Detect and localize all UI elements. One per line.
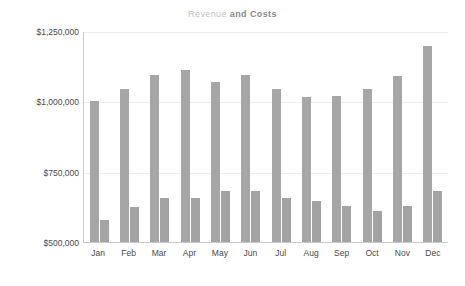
bar-group	[90, 32, 109, 242]
bar-costs-sep[interactable]	[342, 206, 351, 242]
bar-revenue-jul[interactable]	[272, 89, 281, 242]
bar-group	[393, 32, 412, 242]
bar-costs-jul[interactable]	[282, 198, 291, 242]
x-tick-label: Jul	[266, 248, 296, 259]
bar-group	[150, 32, 169, 242]
bar-revenue-sep[interactable]	[332, 96, 341, 242]
x-tick-label: Aug	[296, 248, 326, 259]
bar-revenue-feb[interactable]	[120, 89, 129, 242]
bar-revenue-mar[interactable]	[150, 75, 159, 242]
y-tick-label: $500,000	[1, 238, 79, 248]
x-tick-label: Dec	[418, 248, 448, 259]
bar-group	[423, 32, 442, 242]
bar-revenue-may[interactable]	[211, 82, 220, 242]
chart-title-part-light: Revenue	[188, 9, 227, 19]
x-tick-label: Sep	[326, 248, 356, 259]
bar-costs-apr[interactable]	[191, 198, 200, 242]
y-tick-label: $750,000	[1, 168, 79, 178]
chart-title-part-strong: and Costs	[227, 9, 277, 19]
bar-revenue-aug[interactable]	[302, 97, 311, 242]
bar-revenue-nov[interactable]	[393, 76, 402, 242]
x-tick-label: Nov	[387, 248, 417, 259]
bar-group	[181, 32, 200, 242]
bar-revenue-jan[interactable]	[90, 101, 99, 242]
bar-group	[272, 32, 291, 242]
bar-costs-jan[interactable]	[100, 220, 109, 243]
x-tick-label: Jan	[83, 248, 113, 259]
x-tick-label: Mar	[144, 248, 174, 259]
x-tick-label: Oct	[357, 248, 387, 259]
plot-area	[83, 32, 448, 243]
x-axis-labels: JanFebMarAprMayJunJulAugSepOctNovDec	[83, 248, 448, 259]
bar-costs-feb[interactable]	[130, 207, 139, 242]
bar-costs-may[interactable]	[221, 191, 230, 242]
revenue-and-costs-chart: Revenue and Costs $1,250,000$1,000,000$7…	[0, 0, 465, 286]
bar-costs-oct[interactable]	[373, 211, 382, 242]
bar-costs-jun[interactable]	[251, 191, 260, 242]
x-tick-label: Apr	[174, 248, 204, 259]
bar-group	[363, 32, 382, 242]
bar-revenue-jun[interactable]	[241, 75, 250, 242]
bar-costs-nov[interactable]	[403, 206, 412, 242]
y-axis-labels: $1,250,000$1,000,000$750,000$500,000	[0, 0, 79, 286]
bar-costs-mar[interactable]	[160, 198, 169, 242]
bar-costs-aug[interactable]	[312, 201, 321, 242]
x-tick-label: Feb	[113, 248, 143, 259]
x-tick-label: Jun	[235, 248, 265, 259]
bar-group	[120, 32, 139, 242]
bar-revenue-dec[interactable]	[423, 46, 432, 242]
bar-group	[332, 32, 351, 242]
bar-group	[211, 32, 230, 242]
x-tick-label: May	[205, 248, 235, 259]
bar-revenue-oct[interactable]	[363, 89, 372, 242]
bar-revenue-apr[interactable]	[181, 70, 190, 242]
bar-group	[241, 32, 260, 242]
bar-costs-dec[interactable]	[433, 191, 442, 242]
y-tick-label: $1,000,000	[1, 97, 79, 107]
y-tick-label: $1,250,000	[1, 27, 79, 37]
bar-group	[302, 32, 321, 242]
bars-layer	[84, 32, 448, 242]
